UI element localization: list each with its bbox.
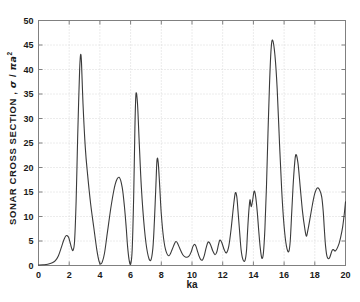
y-axis-label-separator: , [7, 88, 18, 98]
y-axis-label: SONAR CROSS SECTION , σ / πa2 [6, 18, 18, 258]
tick-label-x: 6 [128, 270, 133, 280]
tick-label-y: 20 [23, 163, 33, 173]
tick-label-x: 16 [279, 270, 289, 280]
tick-label-y: 10 [23, 212, 33, 222]
tick-label-y: 40 [23, 65, 33, 75]
tick-label-y: 50 [23, 16, 33, 26]
sonar-cross-section-chart: SONAR CROSS SECTION , σ / πa2 0246810121… [0, 0, 360, 302]
tick-label-x: 18 [310, 270, 320, 280]
y-axis-label-exponent: 2 [6, 51, 13, 55]
tick-label-x: 2 [67, 270, 72, 280]
y-axis-label-main: SONAR CROSS SECTION [7, 98, 18, 225]
tick-label-y: 35 [23, 89, 33, 99]
tick-label-y: 30 [23, 114, 33, 124]
y-axis-label-slash: / [7, 71, 18, 81]
tick-label-x: 4 [97, 270, 102, 280]
tick-label-x: 8 [159, 270, 164, 280]
tick-label-y: 5 [28, 236, 33, 246]
tick-label-y: 25 [23, 138, 33, 148]
y-axis-label-container: SONAR CROSS SECTION , σ / πa2 [0, 0, 22, 280]
tick-label-x: 12 [218, 270, 228, 280]
tick-label-y: 45 [23, 40, 33, 50]
y-axis-label-sigma: σ [7, 80, 18, 88]
tick-label-y: 0 [28, 261, 33, 271]
plot-svg: 0246810121416182005101520253035404550 [0, 0, 360, 302]
x-axis-label: ka [38, 279, 346, 290]
tick-label-x: 14 [248, 270, 258, 280]
y-axis-label-pi-a: πa [7, 55, 18, 70]
tick-label-x: 20 [340, 270, 350, 280]
tick-label-x: 10 [187, 270, 197, 280]
tick-label-x: 0 [36, 270, 41, 280]
axis-tick-labels: 0246810121416182005101520253035404550 [23, 16, 350, 280]
tick-label-y: 15 [23, 187, 33, 197]
